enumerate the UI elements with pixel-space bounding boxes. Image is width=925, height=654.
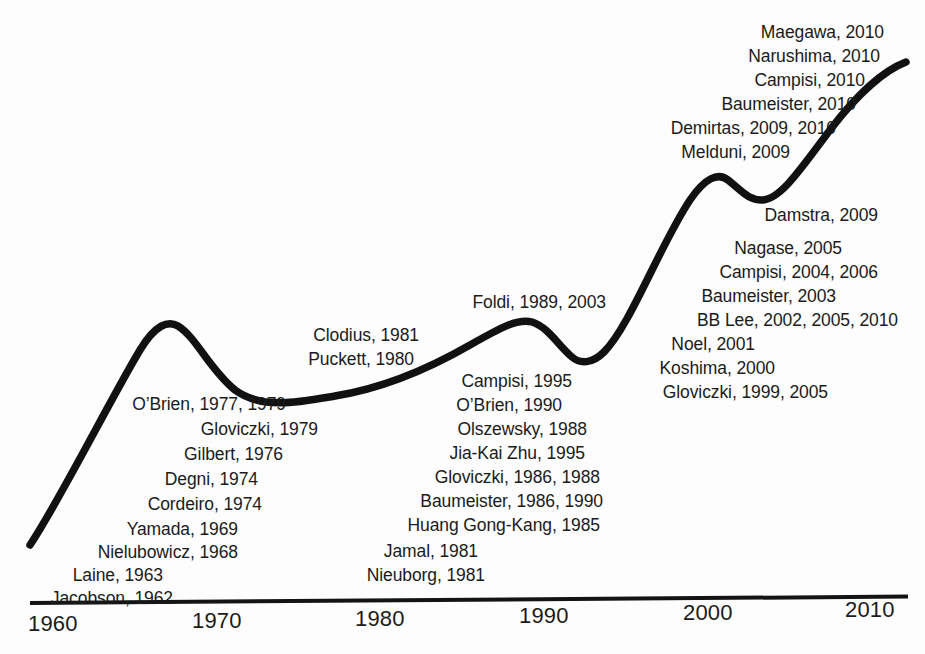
citation-label: Gloviczki, 1999, 2005: [663, 384, 828, 402]
axis-tick-1960: 1960: [28, 613, 78, 635]
axis-tick-1980: 1980: [355, 608, 405, 630]
citation-label: Laine, 1963: [73, 567, 163, 585]
axis-tick-1990: 1990: [519, 605, 569, 627]
citation-label: Baumeister, 2003: [701, 288, 836, 306]
citation-label: Gloviczki, 1986, 1988: [435, 469, 600, 487]
axis-tick-2000: 2000: [683, 602, 733, 624]
citation-label: Nielubowicz, 1968: [98, 544, 238, 562]
citation-label: BB Lee, 2002, 2005, 2010: [697, 312, 898, 330]
citation-label: Nagase, 2005: [734, 240, 842, 258]
citation-label: Gilbert, 1976: [184, 446, 283, 464]
citation-label: O’Brien, 1977, 1979: [132, 396, 286, 414]
citation-label: Jamal, 1981: [384, 543, 478, 561]
citation-label: Campisi, 2004, 2006: [719, 264, 878, 282]
citation-label: Campisi, 2010: [754, 72, 865, 90]
citation-label: Jacobson, 1962: [51, 590, 173, 608]
citation-label: Gloviczki, 1979: [201, 421, 318, 439]
axis-tick-1970: 1970: [192, 610, 242, 632]
citation-label: Puckett, 1980: [308, 351, 414, 369]
timeline-figure: O’Brien, 1977, 1979 Gloviczki, 1979 Gilb…: [0, 0, 925, 654]
citation-label: Demirtas, 2009, 2010: [671, 120, 836, 138]
citation-label: Nieuborg, 1981: [367, 567, 485, 585]
citation-label: Huang Gong-Kang, 1985: [408, 517, 601, 535]
citation-label: Jia-Kai Zhu, 1995: [450, 445, 585, 463]
citation-label: Maegawa, 2010: [761, 24, 884, 42]
citation-label: Clodius, 1981: [313, 327, 419, 345]
citation-label: Olszewsky, 1988: [458, 421, 587, 439]
citation-label: Cordeiro, 1974: [148, 496, 262, 514]
citation-label: Yamada, 1969: [127, 521, 238, 539]
citation-label: Narushima, 2010: [748, 48, 880, 66]
citation-label: Damstra, 2009: [765, 207, 878, 225]
citation-label: Koshima, 2000: [660, 360, 775, 378]
citation-label: Degni, 1974: [165, 471, 258, 489]
citation-label: O’Brien, 1990: [456, 397, 562, 415]
citation-label: Campisi, 1995: [461, 373, 572, 391]
citation-label: Baumeister, 1986, 1990: [420, 493, 603, 511]
citation-label: Foldi, 1989, 2003: [472, 294, 606, 312]
citation-label: Baumeister, 2010: [721, 96, 856, 114]
citation-label: Noel, 2001: [671, 336, 755, 354]
citation-label: Melduni, 2009: [681, 144, 790, 162]
axis-tick-2010: 2010: [845, 599, 895, 621]
